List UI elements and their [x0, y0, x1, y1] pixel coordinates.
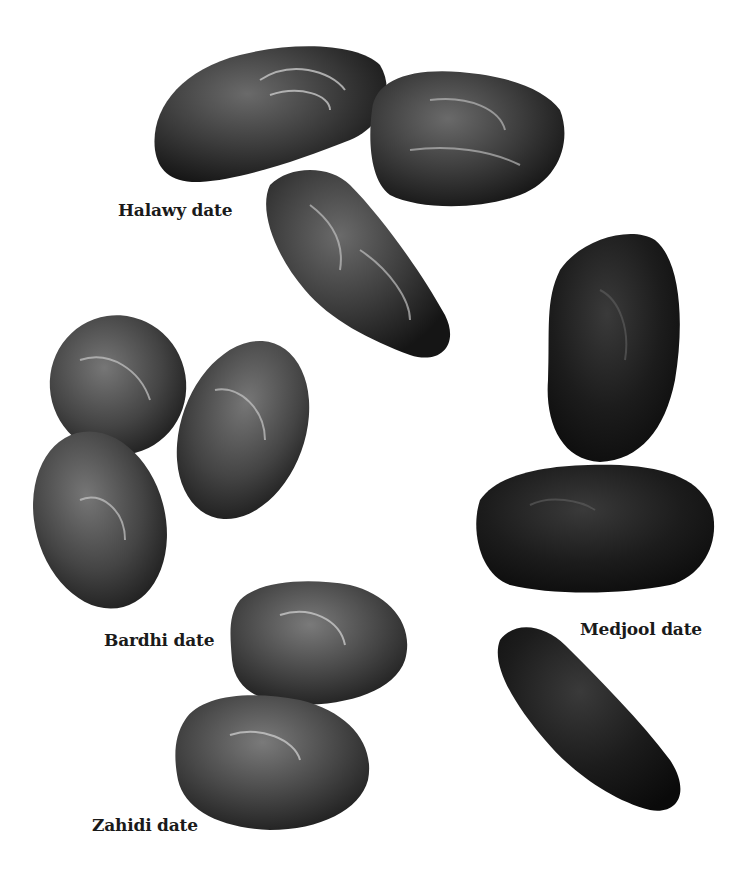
bardhi-date-3 — [14, 416, 186, 624]
medjool-date-group — [476, 234, 714, 811]
halawy-date-1 — [154, 46, 386, 182]
medjool-date-1 — [548, 234, 680, 462]
zahidi-date-label: Zahidi date — [92, 815, 198, 835]
halawy-date-2 — [370, 71, 564, 206]
zahidi-date-2 — [175, 695, 369, 830]
halawy-date-label: Halawy date — [118, 200, 232, 220]
medjool-date-3 — [498, 627, 681, 810]
medjool-date-2 — [476, 465, 714, 593]
bardhi-date-label: Bardhi date — [104, 630, 214, 650]
date-varieties-illustration: Halawy date Bardhi date Medjool date Zah… — [0, 0, 747, 873]
zahidi-date-1 — [230, 581, 407, 705]
dates-artwork — [0, 0, 747, 873]
bardhi-date-2 — [153, 322, 332, 537]
zahidi-date-group — [175, 581, 407, 830]
bardhi-date-group — [14, 296, 333, 624]
medjool-date-label: Medjool date — [580, 619, 702, 639]
